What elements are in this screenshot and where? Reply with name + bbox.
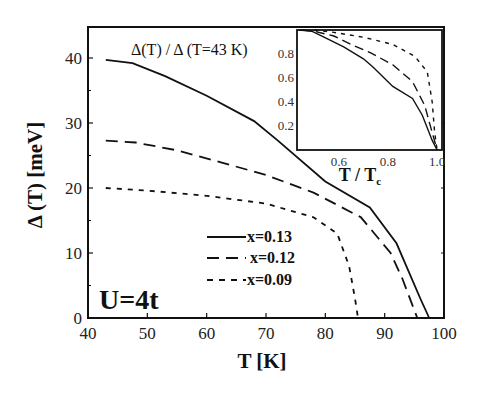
y-tick-label: 20 <box>65 179 82 198</box>
inset-title: Δ(T) / Δ (T=43 K) <box>131 41 248 59</box>
legend-label-2: x=0.09 <box>247 271 292 288</box>
u-label: U=4t <box>99 284 159 315</box>
inset-x-tick-label: 0.8 <box>380 154 396 169</box>
y-tick-label: 30 <box>65 114 82 133</box>
y-tick-label: 10 <box>65 244 82 263</box>
inset-y-tick-label: 0.6 <box>278 70 295 85</box>
inset-x-tick-label: 1.0 <box>429 154 445 169</box>
x-tick-label: 80 <box>317 324 334 343</box>
y-tick-label: 40 <box>65 49 82 68</box>
legend-label-1: x=0.12 <box>250 249 295 266</box>
legend: x=0.13 x=0.12 x=0.09 <box>207 228 295 288</box>
inset-x-axis-title: T / Tc <box>339 165 381 187</box>
x-tick-label: 60 <box>198 324 215 343</box>
inset-y-tick-label: 0.4 <box>278 94 295 109</box>
legend-label-0: x=0.13 <box>247 228 292 245</box>
x-tick-label: 90 <box>376 324 393 343</box>
x-axis-title: T [K] <box>237 349 286 373</box>
gap-vs-temperature-chart: 405060708090100 010203040 T [K] Δ (T) [m… <box>0 0 484 395</box>
x-tick-label: 40 <box>80 324 97 343</box>
x-tick-label: 100 <box>431 324 457 343</box>
inset-y-tick-label: 0.2 <box>278 118 294 133</box>
y-axis-title: Δ (T) [meV] <box>23 122 47 228</box>
inset-frame <box>297 30 442 150</box>
y-tick-label: 0 <box>74 309 83 328</box>
x-tick-label: 50 <box>139 324 156 343</box>
inset-y-tick-label: 0.8 <box>278 46 294 61</box>
x-tick-label: 70 <box>258 324 275 343</box>
inset-chart: 0.60.81.00.20.40.60.8 T / Tc <box>278 30 445 187</box>
